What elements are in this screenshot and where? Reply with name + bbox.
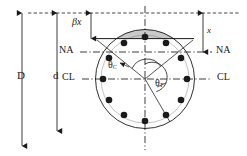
bar-dot: [100, 76, 107, 83]
bar-dot: [142, 118, 149, 125]
theta-t-subscript: T: [160, 82, 163, 88]
bar-dot: [121, 112, 128, 119]
radial-line-left-compression: [97, 40, 145, 79]
label-na-left: NA: [59, 45, 73, 55]
bar-dot: [163, 40, 170, 47]
diagram-svg: [0, 0, 247, 156]
label-theta-t: θT: [155, 78, 163, 88]
theta-c-subscript: C: [113, 64, 117, 70]
bar-dot: [106, 97, 113, 104]
figure-canvas: βx x NA NA CL CL D d θC θT: [0, 0, 247, 156]
label-D: D: [17, 70, 25, 81]
bar-dot: [163, 112, 170, 119]
label-theta-c: θC: [108, 60, 117, 70]
label-x: x: [207, 26, 211, 35]
theta-c-arc: [132, 59, 161, 69]
label-cl-left: CL: [62, 72, 75, 82]
bar-dot: [178, 55, 185, 62]
label-na-right: NA: [216, 45, 230, 55]
bar-dot: [184, 76, 191, 83]
label-cl-right: CL: [217, 72, 230, 82]
bar-dot: [121, 40, 128, 47]
label-d: d: [53, 70, 59, 81]
bar-dot: [142, 34, 149, 41]
label-beta-x: βx: [72, 17, 81, 27]
bar-dot: [178, 97, 185, 104]
